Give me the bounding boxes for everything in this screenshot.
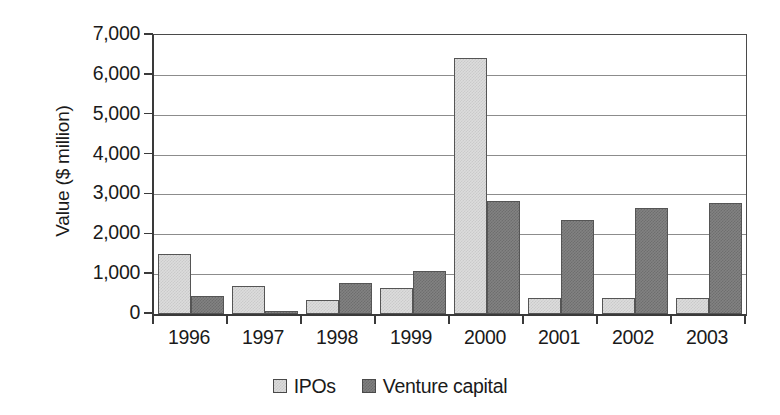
chart-legend: IPOsVenture capital (0, 376, 780, 396)
y-axis-tick-label: 4,000 (54, 144, 140, 164)
bar-venture-capital-2003[interactable] (709, 203, 742, 314)
bar-venture-capital-1999[interactable] (413, 271, 446, 314)
bar-ipos-2003[interactable] (676, 298, 709, 314)
legend-label: IPOs (294, 376, 336, 396)
legend-swatch-icon (273, 379, 287, 393)
bar-ipos-2001[interactable] (528, 298, 561, 314)
y-axis-tick (144, 113, 153, 115)
bar-ipos-1997[interactable] (232, 286, 265, 314)
bar-group (306, 35, 372, 314)
y-axis-tick (144, 73, 153, 75)
bar-ipos-1996[interactable] (158, 254, 191, 314)
bar-venture-capital-2001[interactable] (561, 220, 594, 314)
bar-group (528, 35, 594, 314)
y-axis-tick (144, 153, 153, 155)
x-axis-label-1999: 1999 (371, 326, 451, 348)
bar-venture-capital-1998[interactable] (339, 283, 372, 314)
bar-venture-capital-1997[interactable] (265, 311, 298, 314)
x-axis-label-1997: 1997 (223, 326, 303, 348)
y-axis-tick-label: 3,000 (54, 183, 140, 203)
y-axis-tick-label: 2,000 (54, 223, 140, 243)
y-axis-tick (144, 33, 153, 35)
x-axis-tick (300, 315, 302, 324)
x-axis-tick (670, 315, 672, 324)
x-axis-label-2003: 2003 (667, 326, 747, 348)
y-axis-tick-label: 7,000 (54, 24, 140, 44)
plot-area (152, 34, 747, 316)
legend-item-ipos[interactable]: IPOs (273, 376, 336, 396)
x-axis-tick-origin (152, 315, 154, 324)
bar-group (676, 35, 742, 314)
x-axis-tick (374, 315, 376, 324)
x-axis-tick (522, 315, 524, 324)
y-axis-tick-label: 0 (54, 303, 140, 323)
bar-ipos-2002[interactable] (602, 298, 635, 314)
bar-ipos-2000[interactable] (454, 58, 487, 314)
y-axis-tick-label: 5,000 (54, 104, 140, 124)
y-axis-tick-label: 1,000 (54, 263, 140, 283)
bar-group (158, 35, 224, 314)
bar-venture-capital-2000[interactable] (487, 201, 520, 314)
bar-group (380, 35, 446, 314)
bar-ipos-1998[interactable] (306, 300, 339, 314)
x-axis-tick (596, 315, 598, 324)
y-axis-tick (144, 272, 153, 274)
x-axis-tick (448, 315, 450, 324)
legend-item-venture-capital[interactable]: Venture capital (362, 376, 508, 396)
x-axis-label-2000: 2000 (445, 326, 525, 348)
x-axis-label-1998: 1998 (297, 326, 377, 348)
legend-label: Venture capital (383, 376, 508, 396)
y-axis-tick (144, 233, 153, 235)
x-axis-label-2002: 2002 (593, 326, 673, 348)
y-axis-tick-labels: 7,0006,0005,0004,0003,0002,0001,0000 (48, 0, 140, 415)
bar-ipos-1999[interactable] (380, 288, 413, 314)
y-axis-tick (144, 193, 153, 195)
x-axis-label-2001: 2001 (519, 326, 599, 348)
chart-figure: Value ($ million) 7,0006,0005,0004,0003,… (0, 0, 780, 415)
x-axis-label-1996: 1996 (149, 326, 229, 348)
legend-swatch-icon (362, 379, 376, 393)
bar-group (602, 35, 668, 314)
y-axis-tick (144, 312, 153, 314)
bar-group (232, 35, 298, 314)
bar-venture-capital-1996[interactable] (191, 296, 224, 314)
bar-venture-capital-2002[interactable] (635, 208, 668, 314)
y-axis-tick-label: 6,000 (54, 64, 140, 84)
x-axis-tick (744, 315, 746, 324)
x-axis-tick (226, 315, 228, 324)
bar-group (454, 35, 520, 314)
